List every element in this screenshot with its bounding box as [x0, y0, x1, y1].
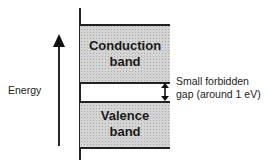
valence-band-label-2: band [109, 124, 140, 140]
valence-band: Valence band [80, 101, 170, 147]
conduction-band-label-2: band [109, 54, 140, 70]
energy-arrow-icon [50, 33, 68, 148]
gap-label-line-1: Small forbidden [176, 75, 249, 87]
conduction-bottom-line [80, 82, 170, 84]
gap-double-arrow-icon [160, 83, 170, 101]
conduction-band-label-1: Conduction [89, 38, 161, 54]
valence-top-line [80, 101, 170, 103]
valence-band-label-1: Valence [101, 108, 149, 124]
energy-axis-label: Energy [8, 84, 41, 96]
conduction-band: Conduction band [80, 25, 170, 82]
conduction-top-line [80, 24, 170, 26]
valence-bottom-line [80, 147, 170, 149]
gap-label-line-2: gap (around 1 eV) [176, 88, 261, 100]
